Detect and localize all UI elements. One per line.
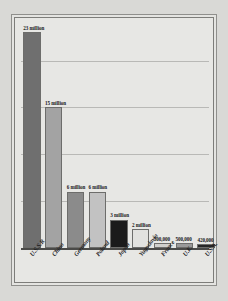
x-axis-labels-group: U.S.S.RChinaGermanyPolandJapanYugoslavia… — [21, 251, 209, 291]
bar-slot: 23 million — [23, 23, 40, 248]
bar-chart-plot-area: 23 million15 million6 million6 million3 … — [21, 23, 209, 278]
bar-value-label: 6 million — [89, 184, 108, 190]
bar-slot: 3 million — [110, 23, 127, 248]
bar-value-label: 23 million — [23, 25, 44, 31]
bar-value-label: 2 million — [132, 222, 151, 228]
bar-value-label: 500,000 — [176, 236, 192, 242]
bar-value-label: 3 million — [110, 212, 129, 218]
bar-value-label: 6 million — [67, 184, 86, 190]
bar-slot: 420,000 — [197, 23, 214, 248]
bar[interactable] — [23, 32, 40, 248]
bars-group: 23 million15 million6 million6 million3 … — [21, 23, 209, 248]
chart-frame: 23 million15 million6 million6 million3 … — [11, 14, 217, 286]
bar-slot: 500,000 — [154, 23, 171, 248]
bar-slot: 2 million — [132, 23, 149, 248]
bar-slot: 500,000 — [176, 23, 193, 248]
bar-slot: 15 million — [45, 23, 62, 248]
bar-value-label: 15 million — [45, 100, 66, 106]
bar-slot: 6 million — [89, 23, 106, 248]
x-axis-line — [21, 248, 209, 250]
bar-slot: 6 million — [67, 23, 84, 248]
chart-frame-inner: 23 million15 million6 million6 million3 … — [14, 17, 214, 283]
bar[interactable] — [45, 107, 62, 248]
